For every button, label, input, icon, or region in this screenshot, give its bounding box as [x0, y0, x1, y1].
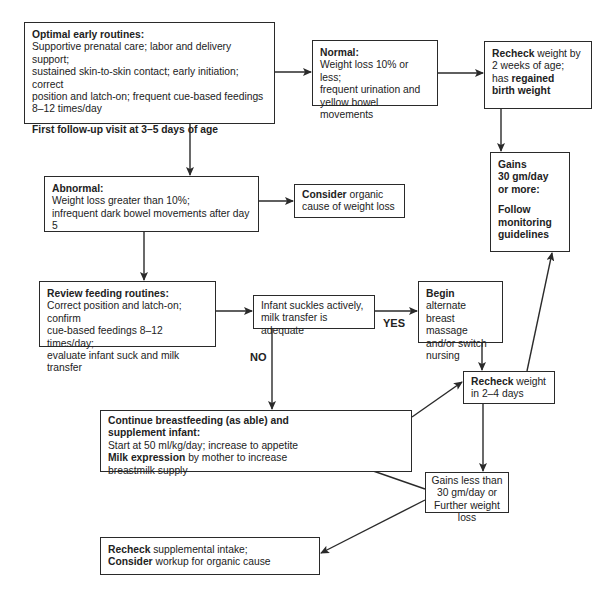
- node-text: Supportive prenatal care; labor and deli…: [32, 41, 267, 66]
- node-text: Weight loss greater than 10%;: [52, 195, 251, 207]
- node-text: nursing: [426, 350, 495, 362]
- node-text: infrequent dark bowel movements after da…: [52, 208, 251, 233]
- node-title: Continue breastfeeding (as able) and: [108, 415, 404, 427]
- node-bold: Milk expression: [108, 452, 185, 463]
- node-text: alternate: [426, 300, 466, 311]
- node-bold: Recheck: [471, 376, 513, 387]
- node-text: 8–12 times/day: [32, 103, 267, 115]
- node-text: Gains: [498, 159, 562, 171]
- node-normal: Normal: Weight loss 10% or less; frequen…: [312, 40, 438, 106]
- edge-label-yes: YES: [383, 317, 405, 329]
- node-text: position and latch-on; frequent cue-base…: [32, 91, 267, 103]
- node-continue-breastfeeding: Continue breastfeeding (as able) and sup…: [100, 410, 412, 472]
- node-recheck-supplemental: Recheck supplemental intake; Consider wo…: [100, 537, 320, 575]
- node-text: or more:: [498, 184, 562, 196]
- node-text: organic: [347, 189, 384, 200]
- node-review-feeding-routines: Review feeding routines: Correct positio…: [39, 281, 216, 347]
- node-text: and/or switch: [426, 338, 495, 350]
- node-title: Optimal early routines:: [32, 29, 267, 41]
- node-text: workup for organic cause: [153, 556, 271, 567]
- node-text: monitoring: [498, 217, 562, 229]
- node-text: yellow bowel movements: [320, 97, 430, 122]
- node-text: Infant suckles actively,: [261, 300, 367, 312]
- node-abnormal: Abnormal: Weight loss greater than 10%; …: [44, 176, 259, 232]
- node-bold: regained: [511, 73, 554, 84]
- node-text: weight: [513, 376, 546, 387]
- arrow-recheck24-to-gains30: [527, 253, 552, 371]
- arrow-gainsless-to-rechecksupp: [321, 500, 425, 553]
- node-recheck-2-4-days: Recheck weight in 2–4 days: [463, 371, 555, 404]
- node-text: Start at 50 ml/kg/day; increase to appet…: [108, 440, 404, 452]
- node-text: Further weight loss: [429, 500, 505, 525]
- node-text: evaluate infant suck and milk transfer: [47, 350, 208, 375]
- node-text: by mother to increase: [185, 452, 287, 463]
- node-text: breastmilk supply: [108, 465, 404, 477]
- node-text: breast massage: [426, 313, 495, 338]
- node-title: Abnormal:: [52, 183, 251, 195]
- node-text: in 2–4 days: [471, 388, 547, 400]
- node-text: guidelines: [498, 229, 562, 241]
- node-text: Follow: [498, 204, 562, 216]
- node-text: milk transfer is adequate: [261, 312, 367, 337]
- node-text: 2 weeks of age;: [492, 60, 584, 72]
- node-bold: Recheck: [492, 48, 534, 59]
- node-consider-organic-cause: Consider organic cause of weight loss: [294, 184, 405, 218]
- node-title: Review feeding routines:: [47, 288, 208, 300]
- node-text: cue-based feedings 8–12 times/day;: [47, 325, 208, 350]
- node-bold: Begin: [426, 288, 455, 299]
- node-text: has: [492, 73, 511, 84]
- node-begin-alternate: Begin alternate breast massage and/or sw…: [418, 281, 503, 343]
- edge-label-no: NO: [250, 351, 267, 363]
- node-footer: First follow-up visit at 3–5 days of age: [32, 124, 267, 136]
- node-text: sustained skin-to-skin contact; early in…: [32, 66, 267, 91]
- node-text: cause of weight loss: [302, 201, 397, 213]
- arrow-continue-to-recheck24: [412, 382, 462, 417]
- node-gains-less-than-30: Gains less than 30 gm/day or Further wei…: [425, 472, 509, 513]
- node-bold: Consider: [108, 556, 153, 567]
- node-gains-30-or-more: Gains 30 gm/day or more: Follow monitori…: [490, 152, 570, 252]
- node-text: Weight loss 10% or less;: [320, 59, 430, 84]
- node-bold: Recheck: [108, 544, 150, 555]
- node-text: weight by: [534, 48, 580, 59]
- node-text: Gains less than: [429, 475, 505, 487]
- node-title: supplement infant:: [108, 427, 404, 439]
- node-text: 30 gm/day: [498, 171, 562, 183]
- node-optimal-early-routines: Optimal early routines: Supportive prena…: [24, 22, 275, 124]
- node-text: 30 gm/day or: [429, 487, 505, 499]
- node-bold: birth weight: [492, 85, 584, 97]
- node-bold: Consider: [302, 189, 347, 200]
- node-text: frequent urination and: [320, 84, 430, 96]
- flowchart-canvas: Optimal early routines: Supportive prena…: [0, 0, 609, 594]
- node-infant-suckles: Infant suckles actively, milk transfer i…: [253, 295, 375, 329]
- node-recheck-two-weeks: Recheck weight by 2 weeks of age; has re…: [484, 41, 592, 109]
- node-text: supplemental intake;: [150, 544, 247, 555]
- node-title: Normal:: [320, 47, 430, 59]
- node-text: Correct position and latch-on; confirm: [47, 300, 208, 325]
